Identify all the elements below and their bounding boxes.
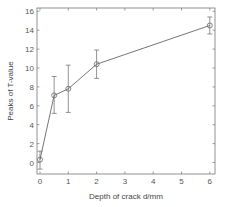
y-tick-label: 4 xyxy=(30,121,35,130)
line-chart: 0246810121416 0123456 Depth of crack d/m… xyxy=(0,0,227,207)
x-tick-label: 6 xyxy=(208,177,213,186)
y-axis-label: Peaks of T-value xyxy=(6,61,15,121)
x-tick-label: 4 xyxy=(151,177,156,186)
y-tick-label: 10 xyxy=(25,64,34,73)
x-tick-label: 2 xyxy=(94,177,99,186)
x-tick-label: 0 xyxy=(38,177,43,186)
y-tick-label: 8 xyxy=(30,83,35,92)
y-tick-label: 16 xyxy=(25,7,34,16)
y-tick-label: 0 xyxy=(30,159,35,168)
y-tick-label: 6 xyxy=(30,102,35,111)
y-tick-label: 12 xyxy=(25,45,34,54)
x-axis-label: Depth of crack d/mm xyxy=(89,192,163,201)
x-tick-label: 3 xyxy=(123,177,128,186)
y-tick-label: 14 xyxy=(25,26,34,35)
x-tick-label: 5 xyxy=(179,177,184,186)
y-tick-label: 2 xyxy=(30,140,35,149)
x-tick-label: 1 xyxy=(66,177,71,186)
